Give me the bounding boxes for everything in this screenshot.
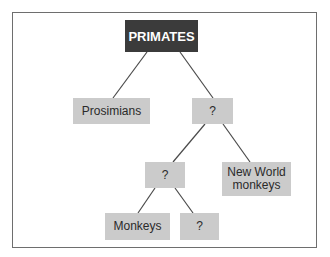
node-unknown-3-label: ? xyxy=(196,220,203,233)
edge-q1-q2 xyxy=(173,124,205,162)
node-prosimians: Prosimians xyxy=(73,98,150,124)
node-monkeys: Monkeys xyxy=(105,213,170,240)
node-unknown-1: ? xyxy=(192,98,233,124)
node-unknown-2: ? xyxy=(145,162,185,188)
node-prosimians-label: Prosimians xyxy=(82,105,141,118)
node-primates: PRIMATES xyxy=(125,20,198,52)
edge-q2-q3 xyxy=(175,188,193,213)
node-monkeys-label: Monkeys xyxy=(113,220,161,233)
node-unknown-1-label: ? xyxy=(209,105,216,118)
node-new-world-monkeys: New World monkeys xyxy=(222,162,291,196)
node-new-world-line2: monkeys xyxy=(232,179,280,192)
edge-q2-monkeys xyxy=(138,188,155,213)
node-primates-label: PRIMATES xyxy=(128,30,194,43)
node-unknown-3: ? xyxy=(180,213,219,240)
edge-q1-newworld xyxy=(223,124,250,162)
node-unknown-2-label: ? xyxy=(162,169,169,182)
edge-primates-prosimians xyxy=(113,52,147,98)
edge-primates-q1 xyxy=(180,52,213,98)
